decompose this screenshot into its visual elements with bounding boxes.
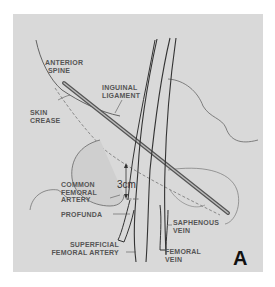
arrow-down-icon xyxy=(124,194,128,199)
label-line: ARTERY xyxy=(61,196,97,204)
label-line: SPINE xyxy=(45,67,83,75)
label-femoral-vein: FEMORAL VEIN xyxy=(165,248,201,263)
label-common-femoral-artery: COMMON FEMORAL ARTERY xyxy=(61,181,97,204)
label-line: PROFUNDA xyxy=(61,211,102,219)
label-line: FEMORAL xyxy=(61,189,97,197)
label-line: INGUINAL xyxy=(102,84,140,92)
label-profunda: PROFUNDA xyxy=(61,211,102,219)
label-line: VEIN xyxy=(173,227,219,235)
profunda-branch xyxy=(118,200,134,242)
inguinal-leader xyxy=(115,100,122,113)
artery-left-wall xyxy=(134,39,157,262)
label-line: FEMORAL xyxy=(165,248,201,256)
label-saphenous-vein: SAPHENOUS VEIN xyxy=(173,219,219,234)
label-skin-crease: SKIN CREASE xyxy=(30,109,60,124)
body-contour xyxy=(36,40,120,116)
lower-contour xyxy=(168,168,239,224)
skin-crease-leader xyxy=(58,95,70,100)
label-line: LIGAMENT xyxy=(102,92,140,100)
label-line: SUPERFICIAL xyxy=(50,241,119,249)
label-line: SAPHENOUS xyxy=(173,219,219,227)
label-line: VEIN xyxy=(165,256,201,264)
label-line: FEMORAL ARTERY xyxy=(50,249,119,257)
label-line: ANTERIOR xyxy=(45,59,83,67)
femoral-anatomy-illustration xyxy=(0,0,275,287)
saphenous-branch xyxy=(160,205,168,250)
label-line: COMMON xyxy=(61,181,97,189)
label-superficial-femoral-artery: SUPERFICIAL FEMORAL ARTERY xyxy=(50,241,119,256)
vessel-outer-line xyxy=(128,40,155,200)
label-inguinal-ligament: INGUINAL LIGAMENT xyxy=(102,84,140,99)
label-line: CREASE xyxy=(30,117,60,125)
label-line: SKIN xyxy=(30,109,60,117)
measurement-label: 3cm xyxy=(117,179,136,190)
label-anterior-spine: ANTERIOR SPINE xyxy=(45,59,83,74)
panel-label: A xyxy=(233,247,247,270)
thigh-contour xyxy=(168,79,258,142)
